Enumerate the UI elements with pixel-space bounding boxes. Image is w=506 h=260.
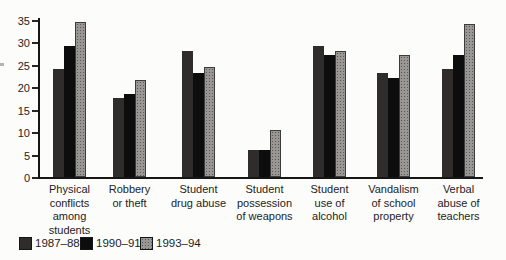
y-axis-tick-label: 5 [6,150,30,162]
bar-series1-cat7 [442,69,453,177]
legend-label: 1987–88 [35,237,80,250]
bar-series1-cat2 [113,98,124,177]
bar-series2-cat7 [453,55,464,177]
bar-series2-cat5 [324,55,335,177]
grouped-bar-chart: 05101520253035Physical conflicts among s… [0,0,506,260]
bar-series2-cat6 [388,78,399,177]
y-axis-tick [32,20,38,22]
bar-series3-cat6 [399,55,410,177]
y-axis-tick [32,177,38,179]
legend-swatch-1987-88 [19,237,32,250]
bar-series1-cat3 [182,51,193,177]
bar-series3-cat7 [464,24,475,177]
legend: 1987–88 1990–91 1993–94 [0,236,506,252]
bar-series2-cat1 [64,46,75,177]
bar-series2-cat2 [124,94,135,177]
y-axis-tick [32,110,38,112]
x-axis-baseline [38,177,483,179]
y-axis-tick-label: 30 [6,37,30,49]
bar-series2-cat3 [193,73,204,177]
y-axis-tick [32,87,38,89]
bar-series1-cat1 [53,69,64,177]
legend-swatch-1993-94 [140,237,153,250]
y-axis-tick-label: 20 [6,82,30,94]
legend-label: 1990–91 [96,237,141,250]
bar-series3-cat4 [270,130,281,177]
y-axis-tick-label: 25 [6,60,30,72]
y-axis-tick-label: 15 [6,105,30,117]
y-axis-tick [32,155,38,157]
bar-series3-cat5 [335,51,346,177]
legend-label: 1993–94 [156,237,201,250]
legend-swatch-1990-91 [80,237,93,250]
bar-series3-cat1 [75,22,86,177]
bar-series1-cat5 [313,46,324,177]
bar-series3-cat3 [204,67,215,177]
bar-series2-cat4 [259,150,270,177]
y-axis-line [38,18,40,178]
y-axis-tick-label: 0 [6,172,30,184]
y-axis-title-fragment [0,63,4,66]
bar-series1-cat4 [248,150,259,177]
bar-series3-cat2 [135,80,146,177]
y-axis-tick [32,42,38,44]
x-axis-category-label: Verbal abuse of teachers [417,183,501,224]
y-axis-tick [32,132,38,134]
y-axis-tick-label: 35 [6,15,30,27]
y-axis-tick-label: 10 [6,127,30,139]
y-axis-tick [32,65,38,67]
bar-series1-cat6 [377,73,388,177]
